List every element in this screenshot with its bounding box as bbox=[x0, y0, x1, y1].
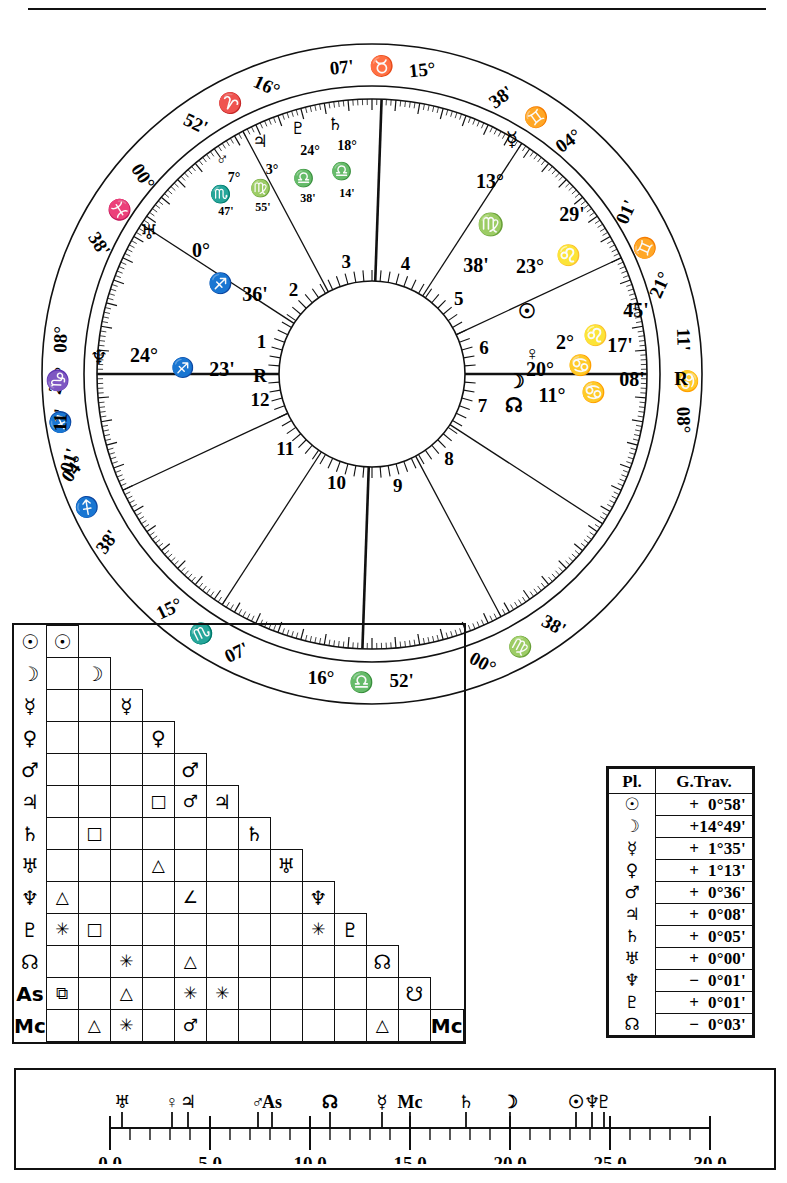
ruler-marker-node[interactable]: ☊ bbox=[322, 1092, 338, 1112]
cusp-9-label-degree: 00° bbox=[466, 647, 499, 678]
aspect-cell-mars-venus[interactable] bbox=[142, 754, 174, 786]
aspect-cell-jupiter-venus[interactable]: □ bbox=[142, 786, 174, 818]
aspect-cell-ascendant-jupiter[interactable]: ✳ bbox=[206, 978, 238, 1010]
aspect-cell-uranus-moon[interactable] bbox=[78, 850, 110, 882]
aspect-cell-node-pluto[interactable] bbox=[334, 946, 366, 978]
ruler-marker-mercury[interactable]: ☿ bbox=[376, 1092, 387, 1112]
aspect-cell-midheaven-node[interactable]: △ bbox=[366, 1010, 398, 1042]
aspect-cell-mars-mercury[interactable] bbox=[110, 754, 142, 786]
aspect-cell-midheaven-moon[interactable]: △ bbox=[78, 1010, 110, 1042]
aspect-cell-node-jupiter[interactable] bbox=[206, 946, 238, 978]
aspect-cell-ascendant-neptune[interactable] bbox=[302, 978, 334, 1010]
aspect-cell-saturn-mars[interactable] bbox=[174, 818, 206, 850]
aspect-cell-ascendant-node[interactable] bbox=[366, 978, 398, 1010]
aspect-cell-ascendant-mars[interactable]: ✳ bbox=[174, 978, 206, 1010]
planet-minute-venus: 45' bbox=[623, 299, 649, 321]
aspect-cell-mars-moon[interactable] bbox=[78, 754, 110, 786]
aspect-cell-neptune-jupiter[interactable] bbox=[206, 882, 238, 914]
aspect-cell-midheaven-pluto[interactable] bbox=[334, 1010, 366, 1042]
ruler-marker-ascendant[interactable]: Aѕ bbox=[262, 1092, 282, 1112]
aspect-cell-pluto-sun[interactable]: ✳ bbox=[46, 914, 78, 946]
ruler-marker-midheaven[interactable]: Mс bbox=[398, 1092, 423, 1112]
aspect-cell-node-neptune[interactable] bbox=[302, 946, 334, 978]
aspect-cell-midheaven-venus[interactable] bbox=[142, 1010, 174, 1042]
aspect-cell-ascendant-sun[interactable]: ⧉ bbox=[46, 978, 78, 1010]
aspect-cell-mars-sun[interactable] bbox=[46, 754, 78, 786]
aspect-cell-saturn-venus[interactable] bbox=[142, 818, 174, 850]
aspect-cell-uranus-mars[interactable] bbox=[174, 850, 206, 882]
ruler-marker-sun[interactable]: ☉ bbox=[568, 1092, 584, 1112]
planet-minute-node: 08' bbox=[619, 368, 645, 390]
gtrav-value-neptune: − 0°01' bbox=[656, 970, 753, 992]
aspect-cell-ascendant-uranus[interactable] bbox=[270, 978, 302, 1010]
aspect-cell-node-venus[interactable] bbox=[142, 946, 174, 978]
aspect-cell-midheaven-ascendant[interactable] bbox=[398, 1010, 430, 1042]
aspect-cell-pluto-venus[interactable] bbox=[142, 914, 174, 946]
aspect-cell-saturn-jupiter[interactable] bbox=[206, 818, 238, 850]
aspect-cell-neptune-moon[interactable] bbox=[78, 882, 110, 914]
planet-sign-saturn: ♎ bbox=[331, 161, 352, 181]
gtrav-planet-mercury: ☿ bbox=[609, 838, 656, 860]
aspect-cell-neptune-mars[interactable]: ∠ bbox=[174, 882, 206, 914]
aspect-cell-midheaven-mars[interactable]: ♂ bbox=[174, 1010, 206, 1042]
aspect-cell-node-mercury[interactable]: ✳ bbox=[110, 946, 142, 978]
aspect-cell-pluto-saturn[interactable] bbox=[238, 914, 270, 946]
aspect-cell-node-saturn[interactable] bbox=[238, 946, 270, 978]
aspect-cell-jupiter-sun[interactable] bbox=[46, 786, 78, 818]
aspect-cell-node-sun[interactable] bbox=[46, 946, 78, 978]
aspect-cell-mercury-moon[interactable] bbox=[78, 690, 110, 722]
aspect-cell-neptune-saturn[interactable] bbox=[238, 882, 270, 914]
aspect-cell-ascendant-saturn[interactable] bbox=[238, 978, 270, 1010]
aspect-cell-uranus-venus[interactable]: △ bbox=[142, 850, 174, 882]
asc-cusp-label-degree: 08° bbox=[49, 326, 71, 353]
ruler-marker-saturn[interactable]: ♄ bbox=[458, 1092, 474, 1112]
aspect-cell-node-moon[interactable] bbox=[78, 946, 110, 978]
ruler-marker-moon[interactable]: ☽ bbox=[502, 1092, 518, 1112]
aspect-cell-pluto-moon[interactable]: □ bbox=[78, 914, 110, 946]
aspect-cell-uranus-sun[interactable] bbox=[46, 850, 78, 882]
aspect-cell-pluto-jupiter[interactable] bbox=[206, 914, 238, 946]
aspect-cell-midheaven-saturn[interactable] bbox=[238, 1010, 270, 1042]
aspect-cell-midheaven-sun[interactable] bbox=[46, 1010, 78, 1042]
aspect-cell-ascendant-pluto[interactable] bbox=[334, 978, 366, 1010]
aspect-diagonal-midheaven: Mс bbox=[430, 1010, 463, 1042]
aspect-cell-pluto-mars[interactable] bbox=[174, 914, 206, 946]
aspect-cell-midheaven-jupiter[interactable] bbox=[206, 1010, 238, 1042]
aspect-cell-moon-sun[interactable] bbox=[46, 658, 78, 690]
aspect-cell-midheaven-uranus[interactable] bbox=[270, 1010, 302, 1042]
aspect-cell-midheaven-mercury[interactable]: ✳ bbox=[110, 1010, 142, 1042]
aspect-cell-uranus-jupiter[interactable] bbox=[206, 850, 238, 882]
aspect-cell-ascendant-mercury[interactable]: △ bbox=[110, 978, 142, 1010]
aspect-cell-jupiter-mercury[interactable] bbox=[110, 786, 142, 818]
aspect-cell-saturn-sun[interactable] bbox=[46, 818, 78, 850]
aspect-cell-neptune-uranus[interactable] bbox=[270, 882, 302, 914]
house-number-5: 5 bbox=[454, 288, 464, 309]
aspect-cell-node-uranus[interactable] bbox=[270, 946, 302, 978]
aspect-cell-ascendant-venus[interactable] bbox=[142, 978, 174, 1010]
aspect-cell-mercury-sun[interactable] bbox=[46, 690, 78, 722]
aspect-cell-node-mars[interactable]: △ bbox=[174, 946, 206, 978]
ruler-tick-label: 5.0 bbox=[198, 1153, 222, 1164]
aspect-cell-venus-sun[interactable] bbox=[46, 722, 78, 754]
aspect-cell-venus-moon[interactable] bbox=[78, 722, 110, 754]
aspect-cell-venus-mercury[interactable] bbox=[110, 722, 142, 754]
aspect-cell-neptune-mercury[interactable] bbox=[110, 882, 142, 914]
aspect-cell-jupiter-mars[interactable]: ♂ bbox=[174, 786, 206, 818]
aspect-cell-midheaven-neptune[interactable] bbox=[302, 1010, 334, 1042]
ruler-marker-venus[interactable]: ♀ bbox=[165, 1092, 179, 1112]
aspect-cell-uranus-mercury[interactable] bbox=[110, 850, 142, 882]
ruler-marker-pluto[interactable]: ♇ bbox=[596, 1092, 612, 1112]
aspect-cell-jupiter-moon[interactable] bbox=[78, 786, 110, 818]
top-divider-rule bbox=[28, 8, 766, 10]
aspect-cell-pluto-mercury[interactable] bbox=[110, 914, 142, 946]
aspect-cell-saturn-moon[interactable]: □ bbox=[78, 818, 110, 850]
ruler-marker-jupiter[interactable]: ♃ bbox=[180, 1092, 196, 1112]
ruler-marker-uranus[interactable]: ♅ bbox=[114, 1092, 130, 1112]
aspect-cell-pluto-neptune[interactable]: ✳ bbox=[302, 914, 334, 946]
aspect-cell-saturn-mercury[interactable] bbox=[110, 818, 142, 850]
aspect-cell-ascendant-moon[interactable] bbox=[78, 978, 110, 1010]
aspect-cell-uranus-saturn[interactable] bbox=[238, 850, 270, 882]
aspect-cell-neptune-sun[interactable]: △ bbox=[46, 882, 78, 914]
aspect-cell-pluto-uranus[interactable] bbox=[270, 914, 302, 946]
aspect-cell-neptune-venus[interactable] bbox=[142, 882, 174, 914]
